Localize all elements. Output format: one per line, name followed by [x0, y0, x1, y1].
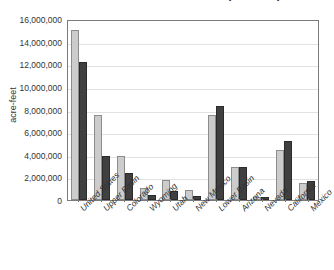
x-tick-mark	[193, 199, 194, 202]
bar	[79, 62, 87, 200]
bar-group	[295, 21, 318, 200]
bar-group	[204, 21, 227, 200]
x-tick-mark	[308, 199, 309, 202]
x-tick-mark	[147, 199, 148, 202]
y-tick-label: 0	[57, 196, 62, 206]
x-tick-mark	[170, 199, 171, 202]
y-tick-label: 14,000,000	[19, 38, 62, 48]
x-tick-mark	[285, 199, 286, 202]
y-tick-label: 12,000,000	[19, 60, 62, 70]
bar-group	[159, 21, 182, 200]
y-tick-label: 6,000,000	[24, 128, 62, 138]
bar-group	[250, 21, 273, 200]
bar-group	[227, 21, 250, 200]
x-axis-tick-labels: United StatesUpper BasinColoradoWyomingU…	[67, 202, 319, 270]
y-tick-label: 4,000,000	[24, 151, 62, 161]
bar-group	[273, 21, 296, 200]
x-tick-mark	[101, 199, 102, 202]
plot-area	[67, 20, 319, 201]
bar-groups	[68, 21, 318, 200]
x-tick-mark	[262, 199, 263, 202]
y-tick-label: 8,000,000	[24, 106, 62, 116]
bar	[71, 30, 79, 200]
y-tick-label: 10,000,000	[19, 83, 62, 93]
bar-group	[182, 21, 205, 200]
bar-group	[136, 21, 159, 200]
chart-title: Colorado River Water Use (acre-feet)	[60, 0, 310, 1]
y-tick-label: 2,000,000	[24, 173, 62, 183]
x-tick-mark	[124, 199, 125, 202]
y-axis-tick-labels: 16,000,00014,000,00012,000,00010,000,000…	[0, 0, 66, 270]
y-tick-label: 16,000,000	[19, 15, 62, 25]
x-tick-mark	[239, 199, 240, 202]
bar-group	[68, 21, 91, 200]
x-tick-mark	[78, 199, 79, 202]
x-tick-mark	[216, 199, 217, 202]
